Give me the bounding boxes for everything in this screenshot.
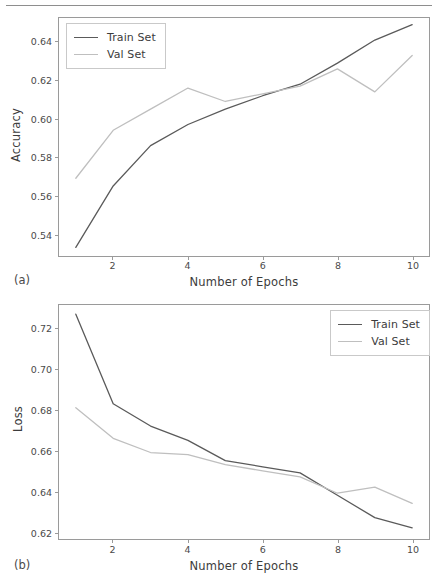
legend-swatch-val <box>74 54 98 55</box>
y-axis-tick-mark <box>55 157 58 158</box>
x-axis-tick-mark <box>413 257 414 260</box>
loss-legend: Train Set Val Set <box>330 310 430 356</box>
x-axis-tick-label: 8 <box>326 544 350 555</box>
loss-x-axis-label: Number of Epochs <box>58 559 430 573</box>
panel-caption-b: (b) <box>14 558 30 572</box>
y-axis-tick-mark <box>55 119 58 120</box>
x-axis-tick-label: 6 <box>251 260 275 271</box>
x-axis-tick-label: 2 <box>100 260 124 271</box>
y-axis-tick-mark <box>55 533 58 534</box>
accuracy-panel: Accuracy Number of Epochs Train Set Val … <box>0 10 438 292</box>
y-axis-tick-label: 0.62 <box>22 527 52 538</box>
y-axis-tick-mark <box>55 235 58 236</box>
y-axis-tick-label: 0.64 <box>22 36 52 47</box>
legend-swatch-train <box>74 37 98 38</box>
x-axis-tick-mark <box>338 540 339 543</box>
y-axis-tick-mark <box>55 41 58 42</box>
y-axis-tick-mark <box>55 196 58 197</box>
legend-entry-val: Val Set <box>74 46 156 63</box>
accuracy-x-axis-label: Number of Epochs <box>58 275 430 289</box>
y-axis-tick-label: 0.68 <box>22 404 52 415</box>
panel-caption-a: (a) <box>14 273 30 287</box>
y-axis-tick-label: 0.70 <box>22 363 52 374</box>
legend-entry-train: Train Set <box>338 316 420 333</box>
x-axis-tick-label: 4 <box>176 260 200 271</box>
legend-swatch-val <box>338 341 362 342</box>
x-axis-tick-label: 10 <box>401 260 425 271</box>
legend-label-train: Train Set <box>371 318 420 331</box>
legend-label-train: Train Set <box>107 31 156 44</box>
accuracy-y-axis-label: Accuracy <box>9 95 23 175</box>
legend-entry-train: Train Set <box>74 29 156 46</box>
x-axis-tick-label: 4 <box>176 544 200 555</box>
x-axis-tick-label: 6 <box>251 544 275 555</box>
y-axis-tick-label: 0.54 <box>22 229 52 240</box>
series-line-val-set <box>76 55 412 178</box>
x-axis-tick-label: 8 <box>326 260 350 271</box>
y-axis-tick-mark <box>55 328 58 329</box>
legend-swatch-train <box>338 324 362 325</box>
y-axis-tick-mark <box>55 80 58 81</box>
series-line-val-set <box>76 408 412 504</box>
y-axis-tick-mark <box>55 369 58 370</box>
x-axis-tick-label: 2 <box>100 544 124 555</box>
accuracy-legend: Train Set Val Set <box>66 23 166 69</box>
x-axis-tick-mark <box>263 257 264 260</box>
y-axis-tick-label: 0.62 <box>22 74 52 85</box>
y-axis-tick-label: 0.58 <box>22 152 52 163</box>
x-axis-tick-mark <box>188 257 189 260</box>
y-axis-tick-label: 0.60 <box>22 113 52 124</box>
x-axis-tick-mark <box>338 257 339 260</box>
y-axis-tick-label: 0.66 <box>22 445 52 456</box>
y-axis-tick-label: 0.72 <box>22 322 52 333</box>
x-axis-tick-label: 10 <box>401 544 425 555</box>
x-axis-tick-mark <box>263 540 264 543</box>
y-axis-tick-mark <box>55 451 58 452</box>
y-axis-tick-mark <box>55 492 58 493</box>
legend-entry-val: Val Set <box>338 333 420 350</box>
page-top-rule <box>6 5 432 6</box>
loss-panel: Loss Number of Epochs Train Set Val Set … <box>0 296 438 584</box>
x-axis-tick-mark <box>188 540 189 543</box>
y-axis-tick-label: 0.56 <box>22 191 52 202</box>
legend-label-val: Val Set <box>371 335 410 348</box>
y-axis-tick-mark <box>55 410 58 411</box>
legend-label-val: Val Set <box>107 48 146 61</box>
figure-page: Accuracy Number of Epochs Train Set Val … <box>0 0 438 584</box>
y-axis-tick-label: 0.64 <box>22 486 52 497</box>
x-axis-tick-mark <box>112 540 113 543</box>
x-axis-tick-mark <box>413 540 414 543</box>
x-axis-tick-mark <box>112 257 113 260</box>
